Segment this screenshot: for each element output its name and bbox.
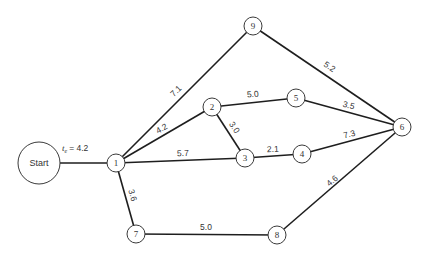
node-label-3: 3 xyxy=(243,153,248,163)
node-label-6: 6 xyxy=(400,122,405,132)
edge-1-3 xyxy=(116,158,245,163)
weight-9-6: 5.2 xyxy=(322,59,338,74)
node-3: 3 xyxy=(236,149,254,167)
te-value: = 4.2 xyxy=(69,143,88,153)
edge-9-6 xyxy=(253,26,402,127)
edge-7-8 xyxy=(136,234,277,235)
te-sub: e xyxy=(65,148,68,154)
start-duration-label: te= 4.2 xyxy=(62,143,89,154)
node-4: 4 xyxy=(293,145,311,163)
weight-1-9: 7.1 xyxy=(168,83,184,99)
network-diagram: 7.1 4.2 5.7 3.6 5.0 3.0 2.1 7.3 3.5 5.2 … xyxy=(0,0,431,257)
node-label-2: 2 xyxy=(210,102,215,112)
node-7: 7 xyxy=(127,225,145,243)
edge-weights: 7.1 4.2 5.7 3.6 5.0 3.0 2.1 7.3 3.5 5.2 … xyxy=(126,59,356,232)
node-label-7: 7 xyxy=(134,229,139,239)
start-node-label: Start xyxy=(29,158,49,168)
node-label-5: 5 xyxy=(294,93,299,103)
weight-3-4: 2.1 xyxy=(267,144,280,155)
node-label-9: 9 xyxy=(251,21,256,31)
node-5: 5 xyxy=(287,89,305,107)
node-label-8: 8 xyxy=(275,230,280,240)
node-9: 9 xyxy=(244,17,262,35)
weight-5-6: 3.5 xyxy=(342,99,356,112)
weight-4-6: 7.3 xyxy=(342,128,356,141)
weight-1-7: 3.6 xyxy=(126,188,139,202)
node-6: 6 xyxy=(393,118,411,136)
weight-8-6: 4.6 xyxy=(324,173,340,188)
edge-1-9 xyxy=(116,26,253,163)
node-1: 1 xyxy=(107,154,125,172)
node-8: 8 xyxy=(268,226,286,244)
weight-7-8: 5.0 xyxy=(200,222,212,232)
node-label-1: 1 xyxy=(114,158,119,168)
edge-2-5 xyxy=(212,98,296,107)
node-start: Start xyxy=(18,142,60,184)
weight-1-3: 5.7 xyxy=(177,148,189,158)
node-label-4: 4 xyxy=(300,149,305,159)
node-2: 2 xyxy=(203,98,221,116)
weight-2-5: 5.0 xyxy=(246,88,259,99)
